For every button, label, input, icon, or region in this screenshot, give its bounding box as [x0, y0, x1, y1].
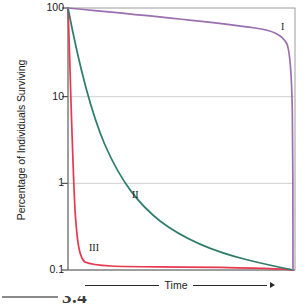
curve-label-II: II: [132, 190, 139, 200]
plot-area: [0, 0, 307, 305]
survivorship-curve-figure: Percentage of Individuals Surviving 100 …: [0, 0, 307, 305]
caption-rule: [2, 296, 58, 298]
x-axis-rule-left: [85, 285, 159, 286]
curve-label-I: I: [281, 22, 284, 32]
x-axis-title: Time: [163, 279, 190, 291]
figure-caption-clipped: 3.4: [0, 296, 307, 305]
caption-number: 3.4: [62, 296, 87, 305]
x-axis-arrow-icon: [270, 282, 275, 288]
x-axis-title-group: Time: [85, 278, 275, 292]
x-axis-rule-right: [193, 285, 267, 286]
curve-label-III: III: [89, 243, 99, 253]
